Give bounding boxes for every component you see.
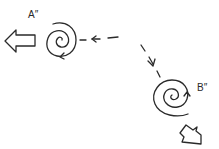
spiral-b-icon	[154, 80, 190, 116]
left-block-arrow-icon	[5, 30, 35, 52]
down-right-block-arrow-icon	[180, 125, 201, 144]
diagram-svg	[0, 0, 219, 149]
node-label-b: B″	[197, 83, 207, 93]
dashed-connector	[80, 36, 160, 77]
diagram-canvas: A″ B″	[0, 0, 219, 149]
spiral-a-icon	[47, 23, 76, 59]
node-label-a: A″	[28, 10, 38, 20]
